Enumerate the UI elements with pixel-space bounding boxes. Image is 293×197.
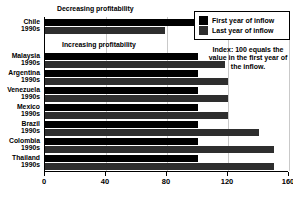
category-axis-labels: Chile1990sMalaysia1990sArgentina1990sVen… (0, 17, 42, 172)
bar (45, 19, 198, 26)
category-label-mexico: Mexico1990s (17, 103, 40, 117)
category-label-thailand: Thailand1990s (12, 154, 40, 168)
bar (45, 138, 198, 145)
bar (45, 129, 259, 136)
axis-tick (227, 172, 228, 176)
bar (45, 95, 228, 102)
bar-group (45, 87, 288, 104)
axis-tick-label: 40 (101, 177, 109, 186)
bar (45, 163, 274, 170)
bar (45, 78, 228, 85)
category-decade: 1990s (12, 161, 40, 168)
legend-swatch-icon (199, 16, 208, 25)
gridline (289, 17, 290, 171)
category-decade: 1990s (9, 144, 40, 151)
annotation-increasing-profitability: Increasing profitability (62, 41, 136, 48)
legend-swatch-icon (199, 26, 208, 35)
bar-group (45, 104, 288, 121)
category-decade: 1990s (7, 93, 40, 100)
legend-item: First year of inflow (199, 16, 285, 25)
bar (45, 146, 274, 153)
legend-label: Last year of inflow (212, 27, 273, 34)
category-name: Malaysia (12, 52, 40, 59)
bar (45, 27, 165, 34)
category-name: Chile (21, 18, 40, 25)
bar (45, 61, 225, 68)
bar (45, 70, 198, 77)
bar-group (45, 155, 288, 172)
axis-tick (44, 172, 45, 176)
index-note: Index: 100 equals the value in the first… (205, 46, 291, 71)
category-decade: 1990s (21, 127, 40, 134)
axis-tick (166, 172, 167, 176)
axis-tick-label: 160 (282, 177, 293, 186)
category-decade: 1990s (12, 59, 40, 66)
value-axis: 04080120160 (44, 172, 288, 194)
axis-tick (288, 172, 289, 176)
bar-group (45, 70, 288, 87)
annotation-decreasing-profitability: Decreasing profitability (57, 5, 134, 12)
category-decade: 1990s (17, 110, 40, 117)
category-name: Venezuela (7, 86, 40, 93)
category-name: Mexico (17, 103, 40, 110)
category-name: Thailand (12, 154, 40, 161)
category-name: Colombia (9, 137, 40, 144)
category-label-chile: Chile1990s (21, 18, 40, 32)
category-label-argentina: Argentina1990s (8, 69, 40, 83)
category-name: Brazil (21, 120, 40, 127)
legend-item: Last year of inflow (199, 26, 285, 35)
category-name: Argentina (8, 69, 40, 76)
axis-tick-label: 120 (221, 177, 234, 186)
bar (45, 112, 228, 119)
bar (45, 104, 198, 111)
bar (45, 87, 198, 94)
category-decade: 1990s (8, 76, 40, 83)
category-label-malaysia: Malaysia1990s (12, 52, 40, 66)
axis-tick (105, 172, 106, 176)
bar-group (45, 121, 288, 138)
category-decade: 1990s (21, 25, 40, 32)
bar (45, 155, 198, 162)
category-label-brazil: Brazil1990s (21, 120, 40, 134)
chart-legend: First year of inflowLast year of inflow (194, 11, 290, 40)
category-label-venezuela: Venezuela1990s (7, 86, 40, 100)
bar (45, 121, 198, 128)
category-label-colombia: Colombia1990s (9, 137, 40, 151)
bar-chart: Chile1990sMalaysia1990sArgentina1990sVen… (0, 0, 293, 197)
axis-tick-label: 0 (42, 177, 46, 186)
legend-label: First year of inflow (212, 17, 274, 24)
bar-group (45, 138, 288, 155)
axis-tick-label: 80 (162, 177, 170, 186)
bar (45, 53, 198, 60)
